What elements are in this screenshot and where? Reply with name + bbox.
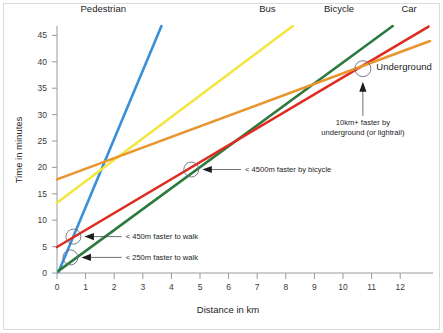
x-tick-label: 6 — [226, 282, 231, 292]
series-lines — [57, 26, 430, 272]
x-tick-label: 8 — [283, 282, 288, 292]
x-tick-label: 10 — [338, 282, 348, 292]
x-tick-label: 4 — [169, 282, 174, 292]
chart-container: 0 5 10 15 20 25 30 35 40 45 — [0, 0, 443, 333]
y-tick-label: 25 — [38, 136, 48, 146]
series-line-bicycle — [58, 26, 392, 271]
series-label-pedestrian: Pedestrian — [81, 3, 126, 14]
x-tick-label: 5 — [198, 282, 203, 292]
line-chart-svg: 0 5 10 15 20 25 30 35 40 45 — [0, 0, 443, 333]
x-tick-label: 0 — [55, 282, 60, 292]
y-tick-label: 35 — [38, 83, 48, 93]
y-axis-title: Time in minutes — [13, 116, 24, 183]
annotation-label-10km-line1: 10km+ faster by — [336, 118, 390, 127]
x-tick-label: 3 — [140, 282, 145, 292]
x-tick-label: 9 — [312, 282, 317, 292]
arrow-icon — [202, 166, 212, 173]
y-tick-label: 20 — [38, 162, 48, 172]
x-tick-label: 7 — [255, 282, 260, 292]
x-tick-label: 11 — [367, 282, 376, 292]
y-tick-label: 5 — [42, 242, 47, 252]
series-label-bicycle: Bicycle — [324, 3, 354, 14]
x-tick-label: 12 — [395, 282, 405, 292]
x-tick-label: 1 — [83, 282, 88, 292]
y-axis-tick-labels: 0 5 10 15 20 25 30 35 40 45 — [38, 30, 48, 278]
y-tick-label: 30 — [38, 110, 48, 120]
x-axis-ticks — [57, 273, 400, 279]
annotation-label-450m: < 450m faster to walk — [126, 232, 199, 241]
annotation-label-250m: < 250m faster to walk — [126, 253, 199, 262]
y-tick-label: 40 — [38, 57, 48, 67]
y-tick-label: 10 — [38, 215, 48, 225]
y-tick-label: 0 — [42, 268, 47, 278]
y-tick-label: 45 — [38, 30, 48, 40]
x-tick-label: 2 — [112, 282, 117, 292]
y-axis: 0 5 10 15 20 25 30 35 40 45 — [38, 26, 57, 278]
arrow-up-icon — [359, 82, 366, 92]
y-axis-ticks — [52, 35, 57, 273]
x-axis-title: Distance in km — [197, 304, 259, 315]
series-label-bus: Bus — [259, 3, 276, 14]
x-axis-tick-labels: 0 1 2 3 4 5 6 7 8 9 10 11 12 — [55, 282, 406, 292]
y-tick-label: 15 — [38, 189, 48, 199]
series-label-underground: Underground — [376, 61, 431, 72]
series-label-car: Car — [401, 3, 416, 14]
arrow-icon — [84, 233, 94, 240]
arrow-icon — [81, 254, 91, 261]
x-axis: 0 1 2 3 4 5 6 7 8 9 10 11 12 — [55, 273, 433, 292]
annotation-label-4500m: < 4500m faster by bicycle — [245, 165, 331, 174]
annotation-label-10km-line2: underground (or lightrail) — [321, 128, 405, 137]
